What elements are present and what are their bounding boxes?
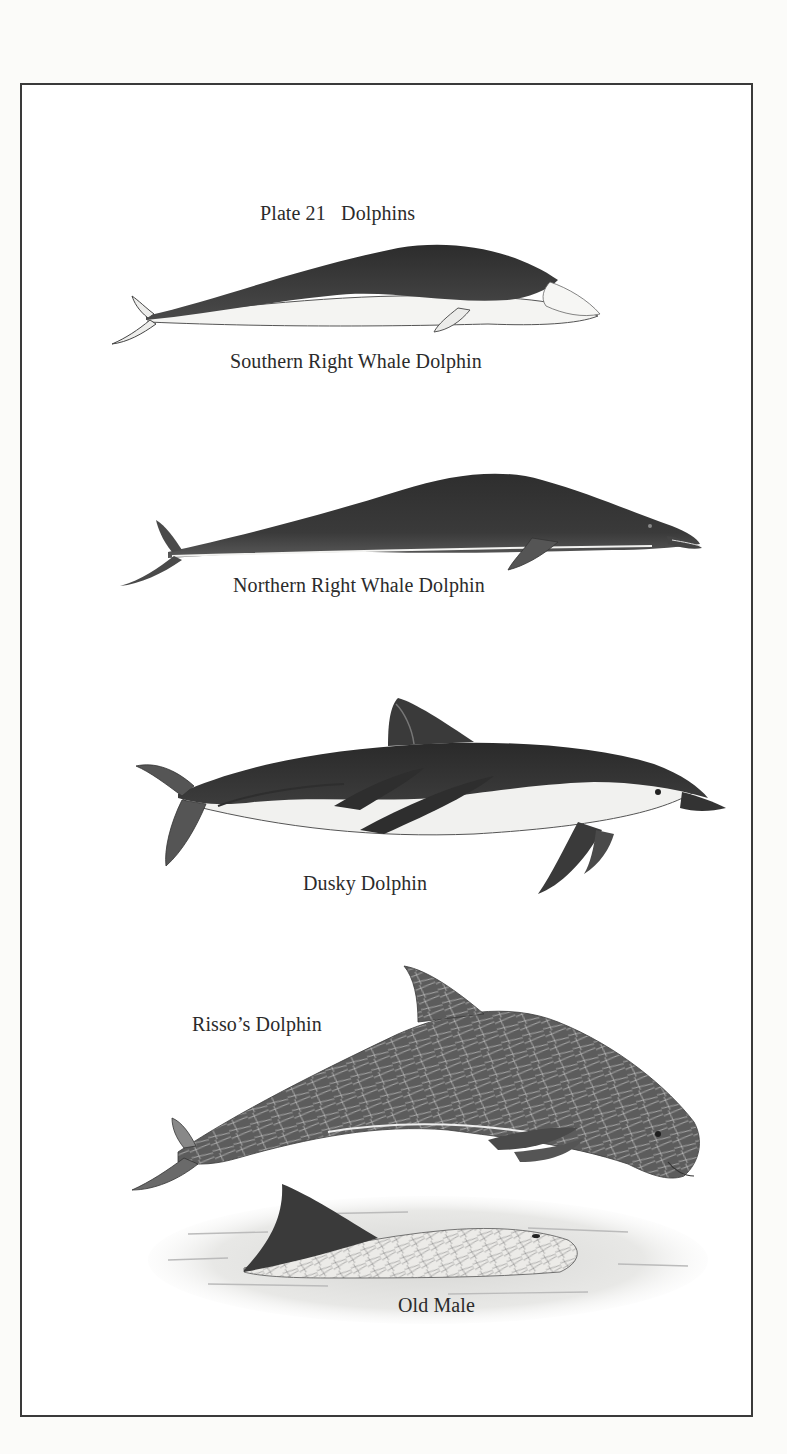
- species-label-rissos-dolphin: Risso’s Dolphin: [192, 1013, 322, 1036]
- species-label-northern-right-whale-dolphin: Northern Right Whale Dolphin: [233, 574, 485, 597]
- plate-title: Plate 21 Dolphins: [260, 202, 415, 225]
- species-label-southern-right-whale-dolphin: Southern Right Whale Dolphin: [230, 350, 482, 373]
- southern-right-whale-dolphin-illustration: [108, 238, 608, 350]
- northern-right-whale-dolphin-illustration: [112, 462, 704, 590]
- species-label-dusky-dolphin: Dusky Dolphin: [303, 872, 427, 895]
- species-sublabel-old-male: Old Male: [398, 1294, 475, 1317]
- dusky-dolphin-illustration: [134, 688, 730, 900]
- rissos-dolphin-illustration: [128, 962, 708, 1198]
